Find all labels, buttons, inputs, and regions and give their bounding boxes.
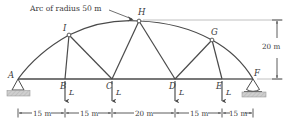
node-label-E: E xyxy=(216,82,222,91)
vertical-members-group xyxy=(65,35,222,79)
member-I-H-arc xyxy=(69,21,139,35)
node-label-A: A xyxy=(8,71,14,80)
roller-ground-hatch xyxy=(242,92,266,97)
dimension-label-A-B: 15 m xyxy=(33,110,51,117)
node-label-B: B xyxy=(60,82,66,91)
pin-triangle-icon xyxy=(12,79,24,90)
load-arrows-group xyxy=(65,81,222,101)
member-G-E xyxy=(212,40,222,79)
pin-ground-hatch xyxy=(7,91,30,97)
node-label-D: D xyxy=(169,82,176,91)
load-label-E: L xyxy=(226,89,231,97)
member-I-B xyxy=(65,35,69,79)
member-I-C xyxy=(69,35,112,79)
arc-note-leader-line xyxy=(109,10,132,19)
node-label-G: G xyxy=(211,28,218,37)
member-H-G-arc xyxy=(139,21,212,40)
roller-rocker-icon xyxy=(247,79,260,91)
dimension-label-height: 20 m xyxy=(262,43,280,50)
member-H-C xyxy=(112,21,139,79)
node-label-H: H xyxy=(138,8,145,17)
load-label-C: L xyxy=(116,89,121,97)
dimension-label-E-F: 15 m xyxy=(229,110,247,117)
dimension-label-D-E: 15 m xyxy=(190,110,208,117)
diagonal-members-group xyxy=(69,21,212,79)
node-label-C: C xyxy=(106,82,113,91)
member-G-F-arc xyxy=(212,40,253,79)
member-H-D xyxy=(139,21,175,79)
support-roller-F xyxy=(242,79,266,97)
member-G-D xyxy=(175,40,212,79)
arc-radius-note: Arc of radius 50 m xyxy=(30,5,102,13)
load-label-D: L xyxy=(179,89,184,97)
dimension-label-B-C: 15 m xyxy=(80,110,98,117)
node-label-F: F xyxy=(254,69,260,78)
joint-marker-I xyxy=(67,33,71,37)
truss-diagram-figure: Arc of radius 50 m A B C D E F G H I L L… xyxy=(0,0,294,129)
support-pin-A xyxy=(7,79,30,96)
joint-marker-G xyxy=(210,38,214,42)
dimension-label-C-D: 20 m xyxy=(135,110,153,117)
joint-marker-H xyxy=(137,19,141,23)
member-A-I-arc xyxy=(18,35,69,79)
load-label-B: L xyxy=(69,89,74,97)
arc-note-leader-group xyxy=(109,10,134,21)
node-label-I: I xyxy=(63,24,66,33)
